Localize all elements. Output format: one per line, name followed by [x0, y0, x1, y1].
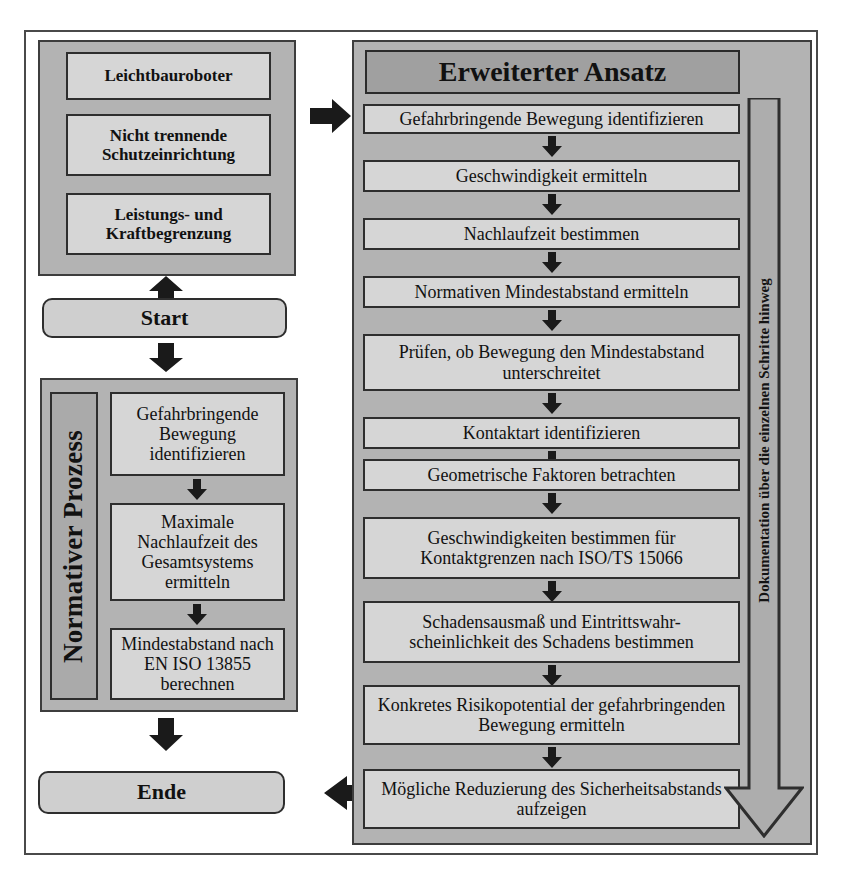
approach-step-4[interactable]: Normativen Mindestabstand ermitteln — [363, 276, 740, 308]
arrow-down-normative-2-3 — [186, 604, 208, 626]
approach-step-5[interactable]: Prüfen, ob Bewegung den Mindestabstand u… — [363, 334, 740, 391]
arrow-down-approach-4-5 — [541, 310, 563, 332]
approach-step-10[interactable]: Konkretes Risikopotential der gefahrbrin… — [363, 685, 740, 745]
approach-step-11[interactable]: Mögliche Reduzierung des Sicherheitsabst… — [363, 769, 740, 829]
arrow-right-precondition-to-approach — [310, 97, 352, 135]
arrow-down-approach-8-9 — [541, 581, 563, 603]
arrow-down-normative-to-end — [147, 718, 185, 752]
arrow-down-approach-10-11 — [541, 747, 563, 769]
scan-artifact — [6, 866, 9, 882]
approach-step-8[interactable]: Geschwindigkeiten bestimmen für Kontaktg… — [363, 517, 740, 579]
normative-process-side-label-text: Normativer Prozess — [59, 429, 90, 662]
approach-step-7[interactable]: Geometrische Faktoren betrachten — [363, 459, 740, 491]
precondition-box-kraftbegrenzung[interactable]: Leistungs- und Kraftbegrenzung — [66, 193, 271, 255]
precondition-box-leichtbauroboter[interactable]: Leichtbauroboter — [66, 52, 271, 100]
start-box[interactable]: Start — [42, 298, 287, 338]
normative-step-2[interactable]: Maximale Nachlaufzeit des Gesamtsystems … — [110, 503, 285, 601]
documentation-arrow — [724, 98, 804, 838]
arrow-down-approach-9-10 — [541, 665, 563, 687]
arrow-down-normative-1-2 — [186, 479, 208, 501]
normative-process-side-label: Normativer Prozess — [50, 392, 98, 700]
approach-step-3[interactable]: Nachlaufzeit bestimmen — [363, 218, 740, 250]
arrow-down-approach-5-6 — [541, 393, 563, 415]
arrow-down-approach-7-8 — [541, 493, 563, 515]
approach-step-9[interactable]: Schadensausmaß und Eintrittswahr-scheinl… — [363, 601, 740, 663]
arrow-down-approach-2-3 — [541, 194, 563, 216]
precondition-box-schutzeinrichtung[interactable]: Nicht trennende Schutzeinrichtung — [66, 114, 271, 176]
end-box[interactable]: Ende — [38, 771, 285, 814]
approach-step-1[interactable]: Gefahrbringende Bewegung identifizieren — [363, 104, 740, 134]
arrow-down-approach-1-2 — [541, 136, 563, 158]
normative-step-1[interactable]: Gefahrbringende Bewegung identifizieren — [110, 392, 285, 476]
approach-step-6[interactable]: Kontaktart identifizieren — [363, 417, 740, 449]
arrow-down-start-to-normative — [147, 343, 185, 373]
extended-approach-header: Erweiterter Ansatz — [365, 50, 740, 94]
arrow-down-approach-3-4 — [541, 252, 563, 274]
normative-step-3[interactable]: Mindestabstand nach EN ISO 13855 berechn… — [110, 628, 285, 700]
approach-step-2[interactable]: Geschwindigkeit ermitteln — [363, 160, 740, 192]
